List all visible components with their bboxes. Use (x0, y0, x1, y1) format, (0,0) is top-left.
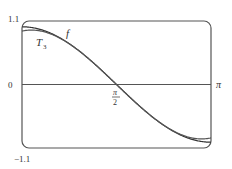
x-tick-half-pi: π 2 (112, 88, 120, 107)
half-pi-numerator: π (113, 88, 118, 97)
label-f: f (66, 27, 71, 39)
half-pi-denominator: 2 (113, 98, 117, 107)
y-tick-zero: 0 (8, 80, 13, 90)
chart: 1.1 0 −1.1 π π 2 f T 3 (0, 0, 232, 169)
x-tick-pi: π (216, 79, 222, 90)
label-t3: T 3 (36, 36, 47, 51)
y-tick-bottom: −1.1 (14, 154, 30, 164)
label-t3-main: T (36, 36, 43, 48)
label-t3-sub: 3 (43, 43, 47, 51)
y-tick-top: 1.1 (8, 14, 19, 24)
